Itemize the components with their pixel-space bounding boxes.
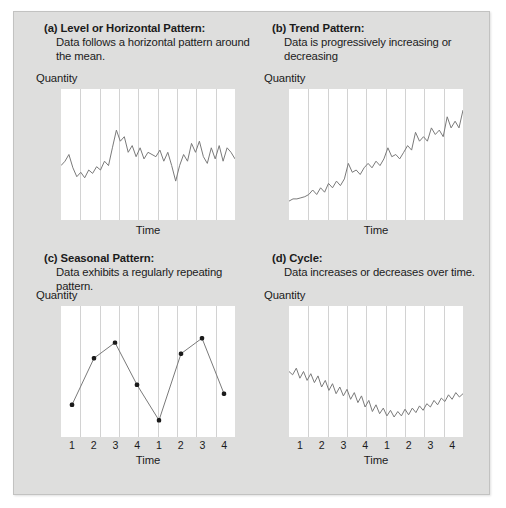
panel-trend-pattern: (b) Trend Pattern: Data is progressively… — [242, 12, 480, 254]
panel-a-x-axis-label: Time — [61, 224, 235, 236]
panel-cycle: (d) Cycle: Data increases or decreases o… — [242, 242, 480, 484]
panel-b-description: Data is progressively increasing or decr… — [284, 36, 484, 63]
panel-a-y-axis-label: Quantity — [36, 72, 77, 84]
x-tick-label: 4 — [449, 439, 455, 451]
panel-level-horizontal-pattern: (a) Level or Horizontal Pattern: Data fo… — [14, 12, 252, 254]
x-tick-label: 4 — [134, 439, 140, 451]
x-tick-label: 3 — [112, 439, 118, 451]
panel-b-title: (b) Trend Pattern: — [272, 22, 482, 35]
x-tick-label: 2 — [91, 439, 97, 451]
x-tick-label: 2 — [406, 439, 412, 451]
panel-d-plot-area — [289, 306, 463, 437]
panel-a-chart — [61, 89, 235, 220]
x-tick-label: 4 — [221, 439, 227, 451]
x-tick-label: 1 — [297, 439, 303, 451]
panel-seasonal-pattern: (c) Seasonal Pattern: Data exhibits a re… — [14, 242, 252, 484]
panel-d-description: Data increases or decreases over time. — [284, 266, 484, 280]
pattern-grid: (a) Level or Horizontal Pattern: Data fo… — [14, 12, 489, 494]
panel-d-title: (d) Cycle: — [272, 252, 482, 265]
panel-b-plot-area — [289, 89, 463, 220]
x-tick-label: 2 — [178, 439, 184, 451]
x-tick-label: 3 — [199, 439, 205, 451]
panel-d-y-axis-label: Quantity — [264, 289, 305, 301]
x-tick-label: 1 — [384, 439, 390, 451]
panel-c-plot-area — [61, 306, 235, 437]
panel-b-x-axis-label: Time — [289, 224, 463, 236]
x-tick-label: 2 — [319, 439, 325, 451]
panel-a-description: Data follows a horizontal pattern around… — [56, 36, 256, 63]
figure-panel: (a) Level or Horizontal Pattern: Data fo… — [13, 11, 490, 495]
panel-c-title: (c) Seasonal Pattern: — [44, 252, 254, 265]
panel-a-plot-area — [61, 89, 235, 220]
x-tick-label: 3 — [340, 439, 346, 451]
x-tick-label: 1 — [69, 439, 75, 451]
panel-c-description: Data exhibits a regularly repeating patt… — [56, 266, 256, 293]
panel-a-title: (a) Level or Horizontal Pattern: — [44, 22, 254, 35]
panel-c-chart — [61, 306, 235, 437]
panel-b-y-axis-label: Quantity — [264, 72, 305, 84]
panel-b-chart — [289, 89, 463, 220]
panel-d-chart — [289, 306, 463, 437]
x-tick-label: 3 — [427, 439, 433, 451]
panel-c-x-ticks: 12341234 — [61, 439, 235, 453]
panel-c-y-axis-label: Quantity — [36, 289, 77, 301]
panel-c-x-axis-label: Time — [61, 454, 235, 466]
panel-d-x-axis-label: Time — [289, 454, 463, 466]
x-tick-label: 1 — [156, 439, 162, 451]
x-tick-label: 4 — [362, 439, 368, 451]
panel-d-x-ticks: 12341234 — [289, 439, 463, 453]
